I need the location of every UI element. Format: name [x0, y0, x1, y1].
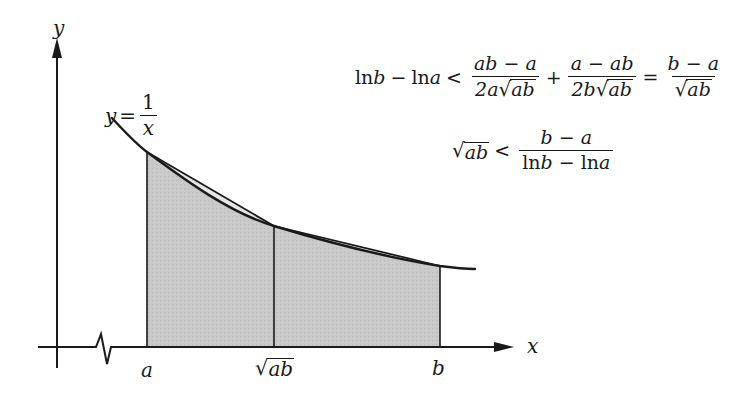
fraction-1-denominator: 2a√ab — [472, 76, 539, 100]
less-than-sign: < — [446, 66, 462, 88]
less-than-sign: < — [494, 139, 510, 161]
tick-label-b: b — [432, 358, 445, 378]
variable-a: a — [430, 66, 441, 88]
plus-sign: + — [546, 66, 562, 88]
sqrt-ab: √ab — [255, 356, 294, 380]
radical-sign-icon: √ — [255, 356, 268, 380]
sqrt-ab: √ab — [499, 79, 536, 100]
fraction-numerator: b − a — [537, 128, 595, 150]
fraction-2-numerator: a − ab — [568, 54, 637, 76]
fraction-log-mean: b − a lnb − lna — [519, 128, 613, 173]
fraction-3-denominator: √ab — [672, 76, 715, 100]
ln-operator: ln — [522, 151, 540, 173]
variable-b: b — [373, 66, 385, 88]
ln-operator: ln — [581, 151, 599, 173]
coefficient: 2b — [571, 78, 595, 100]
sqrt-ab: √ab — [675, 79, 712, 100]
y-axis-arrowhead — [52, 38, 62, 58]
tick-label-a: a — [141, 360, 153, 380]
curve-label-denominator: x — [140, 115, 157, 139]
sqrt-ab: √ab — [452, 138, 489, 162]
x-axis-arrowhead — [494, 342, 514, 352]
curve-label: y = 1 x — [105, 92, 158, 139]
curve-label-numerator: 1 — [139, 92, 158, 115]
inequality-line-1: lnb − lna < ab − a 2a√ab + a − ab 2b√ab … — [355, 54, 726, 100]
tick-label-sqrt-ab: √ab — [255, 356, 294, 380]
fraction-2: a − ab 2b√ab — [568, 54, 637, 100]
fraction-1: ab − a 2a√ab — [471, 54, 540, 100]
variable-b: b — [540, 151, 552, 173]
minus-sign: − — [553, 151, 581, 173]
variable-a: a — [599, 151, 610, 173]
curve-label-equals: = — [119, 104, 136, 128]
fraction-2-denominator: 2b√ab — [568, 76, 635, 100]
inequality-line-2: √ab < b − a lnb − lna — [452, 128, 617, 173]
y-axis-label: y — [53, 18, 64, 38]
minus-sign: − — [391, 66, 407, 88]
curve-label-lhs: y — [105, 104, 116, 128]
fraction-denominator: lnb − lna — [519, 150, 613, 173]
fraction-3: b − a √ab — [665, 54, 723, 100]
fraction-1-numerator: ab − a — [471, 54, 540, 76]
equals-sign: = — [643, 66, 659, 88]
fraction-3-numerator: b − a — [665, 54, 723, 76]
ln-operator: ln — [411, 66, 429, 88]
sqrt-ab: √ab — [596, 79, 633, 100]
coefficient: 2a — [475, 78, 498, 100]
x-axis-label: x — [527, 336, 538, 356]
curve-label-fraction: 1 x — [139, 92, 158, 139]
ln-operator: ln — [355, 66, 373, 88]
